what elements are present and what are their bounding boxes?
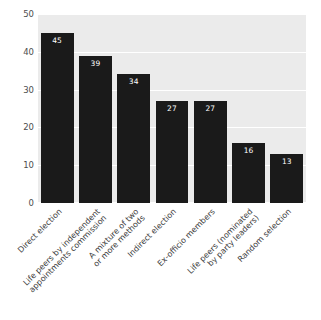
bar-slot: 13 bbox=[268, 14, 306, 203]
bar[interactable]: 27 bbox=[156, 101, 189, 203]
plot-area: 45393427271613 bbox=[38, 14, 306, 203]
bar-value-label: 34 bbox=[129, 78, 139, 203]
y-axis-tick-label: 30 bbox=[0, 85, 34, 95]
x-axis-label-slot: A mixture of twoor more methods bbox=[115, 203, 153, 320]
bar[interactable]: 39 bbox=[79, 56, 112, 203]
bar-value-label: 39 bbox=[91, 60, 101, 203]
bars-container: 45393427271613 bbox=[38, 14, 306, 203]
bar-value-label: 16 bbox=[244, 147, 254, 203]
bar-chart: 01020304050 45393427271613 Direct electi… bbox=[0, 0, 321, 320]
x-axis: Direct electionLife peers by independent… bbox=[38, 203, 306, 320]
y-axis-tick-label: 20 bbox=[0, 122, 34, 132]
y-axis-tick-label: 0 bbox=[0, 198, 34, 208]
bar-slot: 34 bbox=[115, 14, 153, 203]
bar-value-label: 27 bbox=[167, 105, 177, 203]
y-axis-tick-label: 40 bbox=[0, 47, 34, 57]
x-axis-label-slot: Random selection bbox=[268, 203, 306, 320]
x-axis-label-slot: Life peers (nominatedby party leaders) bbox=[229, 203, 267, 320]
bar[interactable]: 34 bbox=[117, 74, 150, 203]
bar-slot: 16 bbox=[229, 14, 267, 203]
y-axis: 01020304050 bbox=[0, 14, 34, 203]
bar-value-label: 27 bbox=[205, 105, 215, 203]
bar[interactable]: 45 bbox=[41, 33, 74, 203]
bar-slot: 27 bbox=[191, 14, 229, 203]
bar-value-label: 13 bbox=[282, 158, 292, 203]
bar-slot: 39 bbox=[76, 14, 114, 203]
bar[interactable]: 13 bbox=[270, 154, 303, 203]
bar-slot: 45 bbox=[38, 14, 76, 203]
bar-value-label: 45 bbox=[52, 37, 62, 203]
y-axis-tick-label: 10 bbox=[0, 160, 34, 170]
bar-slot: 27 bbox=[153, 14, 191, 203]
y-axis-tick-label: 50 bbox=[0, 9, 34, 19]
bar[interactable]: 27 bbox=[194, 101, 227, 203]
bar[interactable]: 16 bbox=[232, 143, 265, 203]
